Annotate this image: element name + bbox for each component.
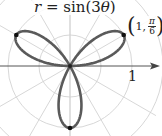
axis-tick-label: 1 [128, 68, 137, 84]
data-point [14, 33, 19, 38]
chart-title: r = sin(3θ) [32, 0, 118, 15]
origin-point [68, 64, 72, 68]
data-point [121, 33, 126, 38]
fraction: π6 [148, 17, 156, 36]
data-point [68, 126, 73, 131]
point-label: (1, π6 ) [127, 16, 162, 36]
